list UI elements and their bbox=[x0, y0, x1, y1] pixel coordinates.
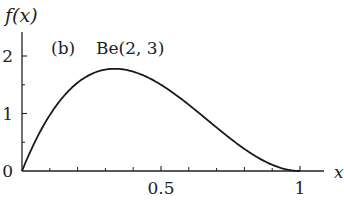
y-axis-label: f(x) bbox=[3, 4, 38, 26]
panel-label: (b) bbox=[51, 38, 75, 58]
density-curve bbox=[22, 69, 300, 171]
beta-density-chart: 0.51012 f(x) (b) Be(2, 3) x bbox=[0, 0, 344, 209]
x-axis-label: x bbox=[334, 162, 344, 182]
x-tick-label: 1 bbox=[295, 178, 306, 198]
y-tick-label: 1 bbox=[2, 104, 13, 124]
y-tick-label: 0 bbox=[2, 161, 13, 181]
beta-2-3-curve bbox=[22, 69, 300, 171]
x-tick-label: 0.5 bbox=[147, 178, 174, 198]
y-tick-label: 2 bbox=[2, 46, 13, 66]
distribution-label: Be(2, 3) bbox=[96, 38, 164, 58]
